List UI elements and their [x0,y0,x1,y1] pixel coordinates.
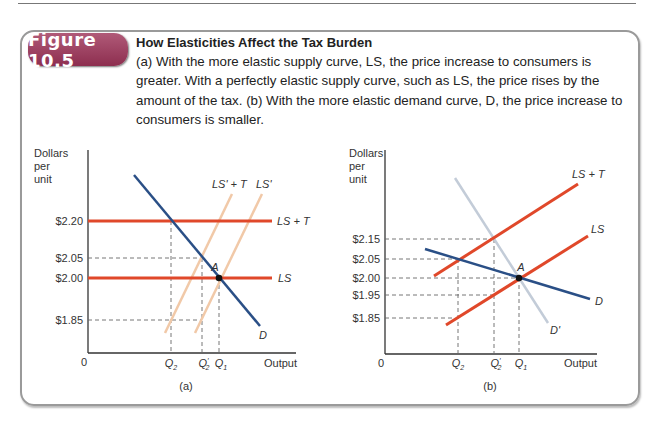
curve-demand [134,175,260,326]
x-tick-q2: Q2 [452,357,465,371]
y-tick: $1.95 [352,289,380,301]
label-demand: D [595,295,603,307]
origin-label: 0 [81,356,87,368]
label-ls: LS [591,223,605,235]
label-demand-prime: D' [550,324,561,336]
label-point-a: A [210,261,218,273]
guide-lines [88,221,219,353]
x-tick-q2: Q2 [165,357,178,371]
equilibrium-point [216,275,223,282]
label-ls-prime-plus-t: LS' + T [212,178,248,190]
y-axis-label: Dollars [34,147,69,159]
origin-label: 0 [378,357,384,369]
chart-panel-b: Dollars per unit $2.15 $2.05 $2.00 $1.95… [349,147,606,392]
curve-demand [425,249,590,299]
x-axis-label: Output [264,357,297,369]
label-ls-plus-t: LS + T [277,215,311,227]
curve-ls-prime [195,194,262,333]
y-tick: $2.15 [352,233,380,245]
label-ls-plus-t: LS + T [572,168,606,180]
curve-demand-prime [455,178,548,323]
y-tick: $1.85 [55,314,83,326]
x-tick-q1: Q1 [215,357,228,371]
y-axis-label: unit [34,173,52,185]
x-tick-q1: Q1 [515,357,528,371]
y-axis-label: Dollars [349,147,384,159]
chart-panel-a: Dollars per unit $2.20 $2.05 $2.00 $1.85… [34,147,311,392]
y-tick: $2.05 [55,252,83,264]
figure-charts: Dollars per unit $2.20 $2.05 $2.00 $1.85… [0,0,653,423]
panel-label: (a) [179,380,192,392]
label-ls: LS [278,272,292,284]
y-tick: $2.00 [55,272,83,284]
panel-label: (b) [483,380,496,392]
y-axis-label: per [349,160,365,172]
x-tick-q2-prime: Q′2 [491,357,502,371]
y-tick: $1.85 [352,312,380,324]
y-axis-label: unit [349,173,367,185]
curve-ls-prime-plus-t [165,194,232,333]
label-point-a: A [516,261,524,273]
curve-ls-plus-t [434,184,578,276]
x-axis-label: Output [564,357,597,369]
y-tick: $2.20 [55,215,83,227]
equilibrium-point [516,275,523,282]
label-ls-prime: LS' [256,178,272,190]
y-axis-label: per [34,160,50,172]
x-tick-q2-prime: Q′2 [199,357,210,371]
label-demand: D [259,329,267,341]
y-tick: $2.00 [352,272,380,284]
y-tick: $2.05 [352,253,380,265]
